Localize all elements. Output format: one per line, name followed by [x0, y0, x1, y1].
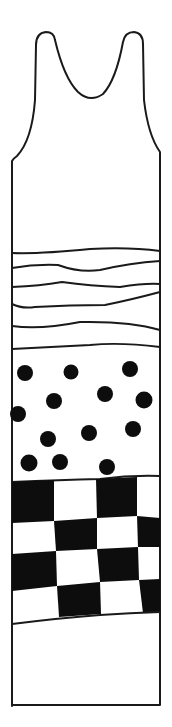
dress-illustration: [0, 0, 172, 727]
polka-dots: [10, 361, 153, 475]
wavy-stripes: [12, 248, 160, 349]
checkerboard: [12, 476, 160, 624]
